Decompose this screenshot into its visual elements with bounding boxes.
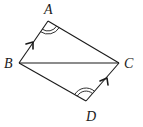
vertex-label-a: A — [43, 2, 53, 17]
vertex-label-b: B — [4, 56, 13, 71]
segment-ac — [48, 21, 119, 63]
quadrilateral-diagram: A B C D — [0, 0, 143, 127]
segment-bd — [19, 63, 86, 101]
segment-dc — [86, 63, 119, 101]
vertex-label-c: C — [124, 56, 134, 71]
vertex-label-d: D — [85, 109, 96, 124]
